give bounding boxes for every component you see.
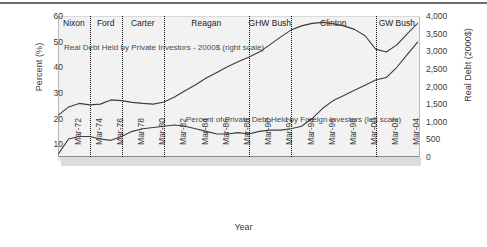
y-tick-right-3500: 3,500 xyxy=(426,30,462,39)
y-tick-right-0: 0 xyxy=(426,153,462,162)
chart-figure: 605040302010 Percent (%) 4,0003,5003,000… xyxy=(0,0,487,247)
y-tick-right-3000: 3,000 xyxy=(426,47,462,56)
y-axis-right-title: Real Debt (2000$) xyxy=(463,15,473,115)
x-tick-Mar-88: Mar-88 xyxy=(242,118,252,164)
x-tick-Mar-04: Mar-04 xyxy=(411,118,421,164)
x-axis-title: Year xyxy=(0,222,487,232)
x-tick-Mar-76: Mar-76 xyxy=(115,118,125,164)
annotation-real-debt: Real Debt Held by Private Investors - 20… xyxy=(64,43,264,52)
x-tick-Mar-84: Mar-84 xyxy=(200,118,210,164)
annotation-foreign-pct: Percent of Private Debt Held by Foreign … xyxy=(186,115,401,124)
president-divider-ghw-bush xyxy=(249,16,250,157)
president-label-gw-bush: GW Bush xyxy=(376,18,418,28)
y-tick-left-20: 20 xyxy=(35,115,63,124)
x-tick-Mar-92: Mar-92 xyxy=(284,118,294,164)
x-tick-Mar-02: Mar-02 xyxy=(390,118,400,164)
x-tick-Mar-74: Mar-74 xyxy=(94,118,104,164)
president-divider-carter xyxy=(122,16,123,157)
president-divider-ford xyxy=(90,16,91,157)
y-tick-right-2500: 2,500 xyxy=(426,65,462,74)
president-label-ghw-bush: GHW Bush xyxy=(249,18,291,28)
president-divider-reagan xyxy=(164,16,165,157)
president-label-clinton: Clinton xyxy=(291,18,376,28)
x-tick-Mar-72: Mar-72 xyxy=(73,118,83,164)
y-tick-right-4000: 4,000 xyxy=(426,12,462,21)
y-tick-left-10: 10 xyxy=(35,140,63,149)
x-tick-Mar-96: Mar-96 xyxy=(327,118,337,164)
x-tick-Mar-98: Mar-98 xyxy=(348,118,358,164)
plot-area xyxy=(58,16,420,158)
y-axis-left-title: Percent (%) xyxy=(34,22,44,112)
x-axis-line xyxy=(58,156,419,157)
president-divider-gw-bush xyxy=(376,16,377,157)
x-tick-Mar-86: Mar-86 xyxy=(221,118,231,164)
y-tick-right-500: 500 xyxy=(426,135,462,144)
president-divider-clinton xyxy=(291,16,292,157)
president-label-nixon: Nixon xyxy=(58,18,90,28)
x-tick-Mar-00: Mar-00 xyxy=(369,118,379,164)
x-tick-Mar-80: Mar-80 xyxy=(157,118,167,164)
president-label-carter: Carter xyxy=(122,18,164,28)
x-tick-Mar-82: Mar-82 xyxy=(178,118,188,164)
x-tick-Mar-90: Mar-90 xyxy=(263,118,273,164)
y-tick-right-1500: 1,500 xyxy=(426,100,462,109)
x-tick-Mar-78: Mar-78 xyxy=(136,118,146,164)
y-tick-right-2000: 2,000 xyxy=(426,83,462,92)
president-label-reagan: Reagan xyxy=(164,18,249,28)
top-rule xyxy=(0,2,487,4)
y-tick-right-1000: 1,000 xyxy=(426,118,462,127)
president-label-ford: Ford xyxy=(90,18,122,28)
x-tick-Mar-94: Mar-94 xyxy=(306,118,316,164)
